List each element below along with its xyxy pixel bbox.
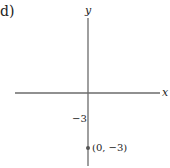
point-label: (0, −3) (92, 143, 127, 153)
y-axis-label: y (85, 5, 91, 16)
point-marker (86, 146, 90, 150)
coordinate-plane (0, 0, 170, 168)
x-axis-label: x (162, 87, 168, 98)
y-tick-label: −3 (72, 114, 87, 124)
